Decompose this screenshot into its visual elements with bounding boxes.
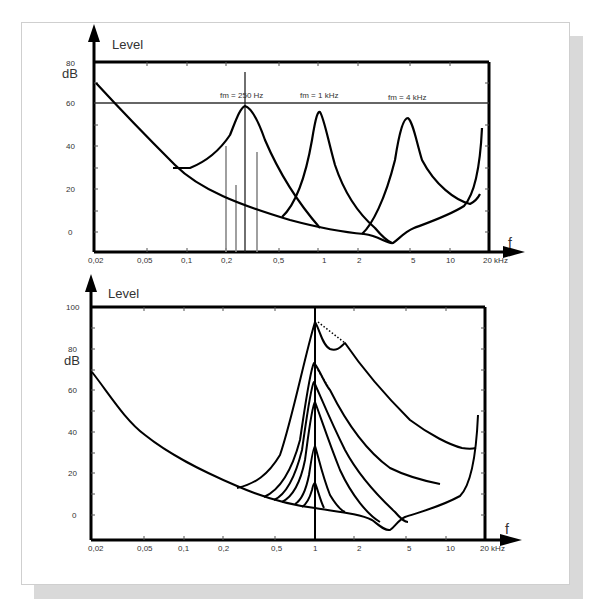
top-y-ticks	[94, 62, 489, 252]
svg-text:1: 1	[313, 544, 318, 553]
svg-text:5: 5	[407, 544, 412, 553]
bottom-ticks	[91, 307, 485, 540]
top-masking-curve-250hz	[173, 106, 320, 228]
svg-text:10: 10	[446, 256, 455, 265]
bottom-y-tick-labels: 100 80 60 40 20 0	[66, 303, 80, 520]
svg-text:0,02: 0,02	[88, 544, 104, 553]
top-x-tick-labels: 0,02 0,05 0,1 0,2 0,5 1 2 5 10 20 kHz	[88, 256, 508, 265]
svg-text:0,2: 0,2	[218, 544, 230, 553]
bottom-y-unit-label: dB	[64, 353, 80, 368]
svg-text:0,02: 0,02	[88, 256, 104, 265]
svg-text:10: 10	[446, 544, 455, 553]
svg-text:0: 0	[72, 511, 77, 520]
svg-text:0,05: 0,05	[137, 544, 153, 553]
svg-text:20: 20	[66, 185, 75, 194]
svg-text:60: 60	[68, 386, 77, 395]
svg-text:20: 20	[68, 469, 77, 478]
figure-canvas: Level dB f 80 60 40 20 0 0,02 0,05 0,1 0…	[0, 0, 599, 600]
svg-text:5: 5	[411, 256, 416, 265]
top-y-arrow-icon	[88, 24, 100, 42]
top-x-axis-label: f	[508, 235, 512, 251]
bottom-x-tick-labels: 0,02 0,05 0,1 0,2 0,5 1 2 5 10 20 kHz	[88, 544, 505, 553]
svg-text:40: 40	[66, 142, 75, 151]
svg-text:0,2: 0,2	[221, 256, 233, 265]
svg-text:100: 100	[66, 303, 80, 312]
svg-text:2: 2	[357, 544, 362, 553]
svg-text:20 kHz: 20 kHz	[483, 256, 508, 265]
bottom-x-axis-label: f	[505, 521, 509, 537]
top-y-unit-label: dB	[62, 66, 78, 81]
svg-text:0,1: 0,1	[178, 544, 190, 553]
top-y-axis-label: Level	[112, 37, 143, 52]
svg-text:1: 1	[322, 256, 327, 265]
bottom-masker-curve-80db	[264, 363, 440, 497]
top-curves	[96, 83, 482, 243]
svg-text:40: 40	[68, 428, 77, 437]
bottom-masker-curve-40db	[295, 446, 345, 512]
top-y-tick-labels: 80 60 40 20 0	[66, 59, 75, 237]
svg-text:80: 80	[68, 345, 77, 354]
svg-text:2: 2	[357, 256, 362, 265]
svg-text:0: 0	[68, 228, 73, 237]
annotation-fm-4khz: fm = 4 kHz	[388, 93, 426, 102]
bottom-chart: Level dB f 100 80 60 40 20 0 0,02 0,05 0…	[64, 274, 522, 553]
svg-text:0,05: 0,05	[137, 256, 153, 265]
annotation-fm-1khz: fm = 1 kHz	[300, 91, 338, 100]
annotation-fm-250hz: fm = 250 Hz	[220, 91, 263, 100]
bottom-y-arrow-icon	[85, 274, 97, 292]
svg-text:80: 80	[66, 59, 75, 68]
top-masking-curve-4khz	[362, 118, 480, 234]
bottom-threshold-curve	[92, 372, 478, 530]
svg-text:20 kHz: 20 kHz	[480, 544, 505, 553]
svg-text:60: 60	[66, 99, 75, 108]
bottom-curves	[92, 322, 478, 530]
svg-text:0,5: 0,5	[273, 256, 285, 265]
bottom-masker-curve-100db	[237, 322, 476, 488]
bottom-y-axis-label: Level	[108, 286, 139, 301]
top-annotations: fm = 250 Hz fm = 1 kHz fm = 4 kHz	[220, 91, 426, 102]
bottom-dotted-extensions	[318, 322, 345, 390]
svg-text:0,1: 0,1	[181, 256, 193, 265]
svg-text:0,5: 0,5	[271, 544, 283, 553]
top-chart: Level dB f 80 60 40 20 0 0,02 0,05 0,1 0…	[62, 24, 525, 265]
